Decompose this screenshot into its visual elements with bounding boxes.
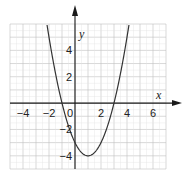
x-axis-label: x	[155, 88, 162, 102]
x-tick-label: −4	[17, 107, 30, 119]
y-tick-label: 4	[66, 44, 72, 56]
x-tick-label: 4	[124, 107, 130, 119]
y-tick-label: −2	[59, 123, 72, 135]
x-tick-label: 2	[98, 107, 104, 119]
grid	[10, 24, 166, 169]
x-tick-label: 6	[150, 107, 156, 119]
x-tick-label: 0	[67, 107, 73, 119]
y-tick-label: −4	[59, 150, 72, 162]
parabola-chart: −4−2024642−2−4 x y	[0, 0, 182, 176]
x-tick-label: −2	[43, 107, 56, 119]
y-tick-label: 2	[66, 71, 72, 83]
y-axis-label: y	[78, 27, 85, 41]
